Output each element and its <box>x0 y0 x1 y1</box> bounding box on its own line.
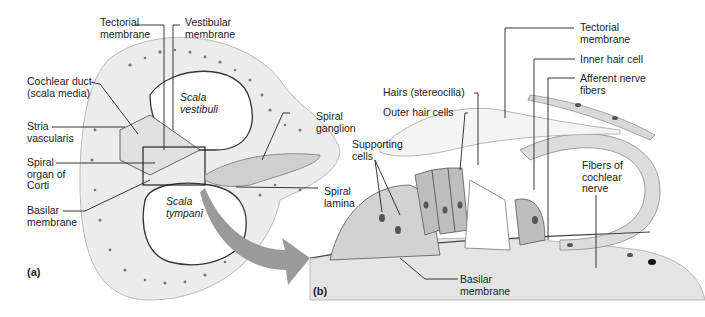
label-b-supporting-cells: Supporting cells <box>352 139 403 162</box>
label-b-fibers-of-cochlear-nerve: Fibers of cochlear nerve <box>582 160 623 195</box>
label-b-inner-hair-cell: Inner hair cell <box>580 54 643 66</box>
label-a-cochlear-duct: Cochlear duct (scala media) <box>27 76 92 99</box>
label-b-afferent-nerve-fibers: Afferent nerve fibers <box>580 73 646 96</box>
label-a-vestibular-membrane: Vestibular membrane <box>185 17 235 40</box>
panel-a-label: (a) <box>27 266 40 278</box>
label-a-spiral-organ-of-corti: Spiral organ of Corti <box>27 157 66 192</box>
label-a-scala-vestibuli: Scala vestibuli <box>180 92 218 115</box>
label-b-tectorial-membrane: Tectorial membrane <box>580 22 630 45</box>
label-b-hairs-stereocilia: Hairs (stereocilia) <box>383 87 465 99</box>
label-b-basilar-membrane: Basilar membrane <box>460 274 510 297</box>
label-b-outer-hair-cells: Outer hair cells <box>383 107 454 119</box>
label-a-tectorial-membrane: Tectorial membrane <box>100 17 150 40</box>
panel-a-cross-section <box>80 37 340 300</box>
label-a-scala-tympani: Scala tympani <box>166 196 203 219</box>
label-a-basilar-membrane: Basilar membrane <box>27 205 77 228</box>
label-a-spiral-lamina: Spiral lamina <box>324 186 355 209</box>
cochlea-figure: Tectorial membrane Vestibular membrane C… <box>0 0 705 317</box>
label-a-spiral-ganglion: Spiral ganglion <box>316 111 356 134</box>
panel-b-label: (b) <box>313 285 327 297</box>
panel-b-organ-of-corti <box>310 95 705 300</box>
label-a-stria-vascularis: Stria vascularis <box>27 121 74 144</box>
